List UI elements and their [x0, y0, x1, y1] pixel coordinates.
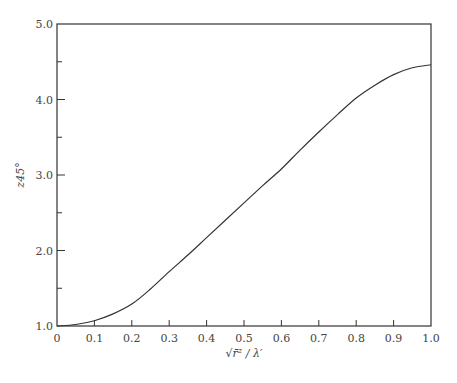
- data-line: [57, 65, 431, 326]
- x-tick-label: 0: [54, 332, 61, 345]
- y-tick-label: 1.0: [36, 320, 54, 333]
- x-tick-label: 0.6: [273, 332, 291, 345]
- x-tick-label: 0.1: [86, 332, 104, 345]
- y-tick-label: 2.0: [36, 245, 54, 258]
- x-tick-label: 0.4: [198, 332, 216, 345]
- plot-frame: [57, 24, 431, 326]
- x-axis-label: √r̄² / λ′: [226, 347, 263, 360]
- y-tick-label: 3.0: [36, 169, 54, 182]
- y-axis-label: z45°: [14, 162, 27, 188]
- x-tick-label: 0.7: [310, 332, 328, 345]
- y-axis: 1.02.03.04.05.0: [36, 18, 66, 333]
- x-tick-label: 0.9: [385, 332, 403, 345]
- x-tick-label: 0.5: [235, 332, 253, 345]
- x-tick-label: 0.3: [160, 332, 178, 345]
- line-chart: 00.10.20.30.40.50.60.70.80.91.0 1.02.03.…: [0, 0, 457, 383]
- x-axis: 00.10.20.30.40.50.60.70.80.91.0: [54, 320, 440, 345]
- y-tick-label: 4.0: [36, 94, 54, 107]
- x-tick-label: 1.0: [422, 332, 440, 345]
- x-tick-label: 0.2: [123, 332, 141, 345]
- x-tick-label: 0.8: [347, 332, 365, 345]
- y-tick-label: 5.0: [36, 18, 54, 31]
